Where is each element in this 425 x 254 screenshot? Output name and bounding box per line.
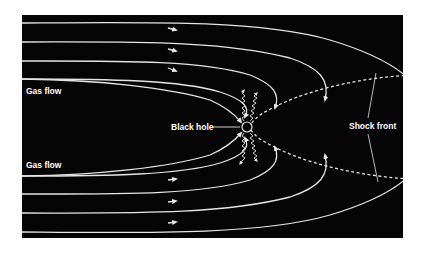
label-gas-flow-top: Gas flow [26,86,62,96]
label-gas-flow-bottom: Gas flow [26,160,62,170]
black-hole [242,122,252,132]
label-shock-front: Shock front [349,121,396,131]
label-black-hole: Black hole [171,122,214,132]
accretion-diagram: Gas flow Gas flow Black hole Shock front [0,0,425,254]
